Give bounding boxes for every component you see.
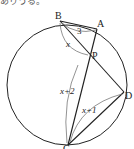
circle-diagram: B A P D C 3 x x+2 x+1 xyxy=(0,0,134,149)
label-AB-length: 3 xyxy=(77,26,82,36)
label-PD-length: x+1 xyxy=(81,105,97,115)
label-P: P xyxy=(92,50,98,61)
label-B: B xyxy=(55,10,62,21)
label-BP-length: x xyxy=(65,39,70,49)
label-PC-length: x+2 xyxy=(59,86,75,96)
label-A: A xyxy=(97,18,105,29)
label-D: D xyxy=(125,90,132,101)
label-C: C xyxy=(63,143,70,149)
